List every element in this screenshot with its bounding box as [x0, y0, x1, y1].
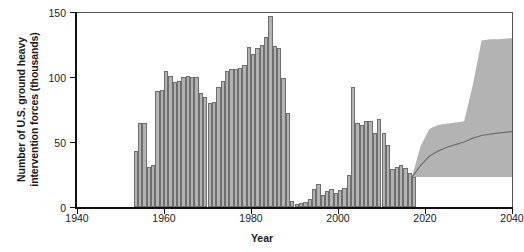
plot-frame-right	[512, 12, 513, 207]
y-tick: 0	[70, 207, 77, 208]
y-tick-label: 100	[48, 72, 66, 84]
x-tick-label: 2040	[500, 212, 523, 224]
chart-figure: Number of U.S. ground heavy intervention…	[0, 0, 524, 252]
y-tick-label: 50	[54, 137, 66, 149]
x-tick-label: 1980	[239, 212, 262, 224]
y-axis-title: Number of U.S. ground heavy intervention…	[15, 9, 42, 209]
plot-area: 050100150 194019601980200020202040	[75, 12, 512, 209]
x-tick-label: 1940	[65, 212, 88, 224]
y-tick: 100	[70, 77, 77, 78]
x-tick-label: 2020	[413, 212, 436, 224]
y-tick-label: 150	[48, 7, 66, 19]
x-axis-title: Year	[0, 232, 524, 244]
forecast-band-area	[412, 38, 512, 177]
y-tick: 150	[70, 12, 77, 13]
y-tick: 50	[70, 142, 77, 143]
x-tick-label: 1960	[152, 212, 175, 224]
forecast-band	[77, 12, 512, 207]
x-tick-label: 2000	[326, 212, 349, 224]
